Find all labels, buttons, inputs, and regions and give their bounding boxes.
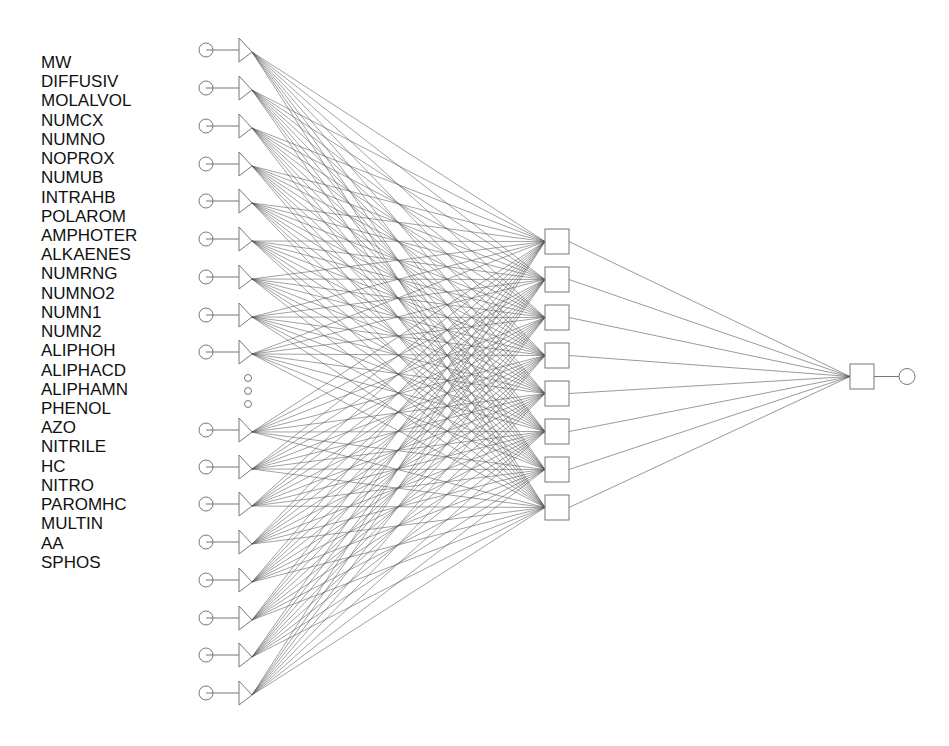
input-node <box>199 227 252 251</box>
input-node <box>199 606 252 630</box>
input-node <box>199 568 252 592</box>
input-triangle-icon <box>239 227 252 251</box>
connection-line <box>252 280 545 433</box>
ellipsis-dot-icon <box>245 401 252 408</box>
hidden-node-box <box>545 229 569 254</box>
input-triangle-icon <box>239 265 252 289</box>
input-triangle-icon <box>239 492 252 516</box>
ellipsis-dot-icon <box>245 388 252 395</box>
hidden-layer <box>545 229 569 520</box>
input-triangle-icon <box>239 152 252 176</box>
connection-line <box>569 356 850 377</box>
connection-line <box>252 356 545 696</box>
connection-line <box>252 242 545 545</box>
input-hidden-connections <box>252 52 545 695</box>
connection-line <box>569 377 850 508</box>
hidden-node-box <box>545 381 569 406</box>
input-node <box>199 455 252 479</box>
connection-line <box>252 432 545 508</box>
connection-line <box>252 470 545 621</box>
connection-line <box>252 318 545 470</box>
connection-line <box>252 470 545 696</box>
input-triangle-icon <box>239 681 252 705</box>
input-node <box>199 76 252 100</box>
input-triangle-icon <box>239 340 252 364</box>
connection-line <box>252 432 545 621</box>
input-node <box>199 340 252 364</box>
connection-line <box>252 166 545 394</box>
connection-line <box>569 242 850 377</box>
input-node <box>199 643 252 667</box>
input-node <box>199 265 252 289</box>
input-node <box>199 418 252 442</box>
input-triangle-icon <box>239 418 252 442</box>
connection-line <box>252 166 545 432</box>
connection-line <box>252 242 545 433</box>
connection-line <box>252 280 545 621</box>
hidden-node-box <box>545 267 569 292</box>
connection-line <box>252 508 545 621</box>
input-triangle-icon <box>239 76 252 100</box>
connection-line <box>252 242 545 583</box>
connection-line <box>252 90 545 242</box>
connection-line <box>252 356 545 621</box>
connection-line <box>252 241 545 242</box>
connection-line <box>252 317 545 318</box>
connection-line <box>252 242 545 696</box>
connection-line <box>252 356 545 433</box>
output-node-box <box>850 364 874 389</box>
input-triangle-icon <box>239 38 252 62</box>
connection-line <box>252 394 545 470</box>
connection-line <box>252 166 545 356</box>
input-triangle-icon <box>239 606 252 630</box>
input-triangle-icon <box>239 568 252 592</box>
hidden-node-box <box>545 305 569 330</box>
input-node <box>199 152 252 176</box>
hidden-node-box <box>545 419 569 444</box>
connection-line <box>252 508 545 696</box>
input-node <box>199 492 252 516</box>
connection-line <box>252 280 545 696</box>
input-node <box>199 189 252 213</box>
connection-line <box>252 166 545 470</box>
connection-line <box>252 394 545 696</box>
connection-line <box>252 242 545 280</box>
hidden-node-box <box>545 495 569 520</box>
connection-line <box>252 203 545 242</box>
hidden-output-connections <box>569 242 850 508</box>
connection-line <box>252 394 545 621</box>
input-layer <box>199 38 252 705</box>
input-triangle-icon <box>239 303 252 327</box>
network-diagram <box>0 0 949 746</box>
input-node <box>199 681 252 705</box>
ellipsis-dots <box>245 375 252 408</box>
input-node <box>199 38 252 62</box>
connection-line <box>252 432 545 433</box>
input-node <box>199 114 252 138</box>
hidden-node-box <box>545 343 569 368</box>
input-node <box>199 303 252 327</box>
input-triangle-icon <box>239 643 252 667</box>
input-node <box>199 530 252 554</box>
connection-line <box>252 166 545 242</box>
hidden-node-box <box>545 457 569 482</box>
input-triangle-icon <box>239 530 252 554</box>
connection-line <box>569 280 850 377</box>
input-triangle-icon <box>239 189 252 213</box>
ellipsis-dot-icon <box>245 375 252 382</box>
connection-line <box>252 166 545 280</box>
connection-line <box>252 242 545 658</box>
input-triangle-icon <box>239 455 252 479</box>
connection-line <box>252 166 545 318</box>
input-triangle-icon <box>239 114 252 138</box>
connection-line <box>569 318 850 377</box>
output-layer <box>850 364 915 389</box>
output-circle-icon <box>899 369 915 385</box>
